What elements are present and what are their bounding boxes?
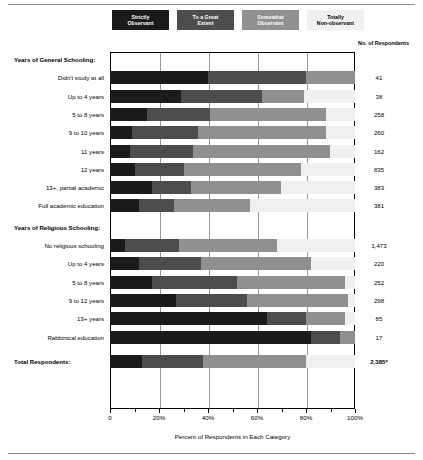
category-label: Didn't study at all — [0, 71, 110, 84]
bar-segment-0 — [110, 355, 142, 368]
table-row — [110, 257, 355, 270]
table-row — [110, 294, 355, 307]
bar-segment-2 — [179, 239, 277, 252]
respondent-count: 220 — [362, 257, 396, 270]
bar-segment-1 — [152, 181, 191, 194]
respondents-column-header: No. of Respondents — [358, 40, 409, 46]
respondent-count: 260 — [362, 126, 396, 139]
respondent-count: 252 — [362, 276, 396, 289]
category-label: 9 to 10 years — [0, 126, 110, 139]
bar-segment-3 — [277, 239, 355, 252]
bar-segment-0 — [110, 331, 311, 344]
bar-segment-1 — [132, 126, 198, 139]
table-row — [110, 126, 355, 139]
legend-label-line2: Observant — [127, 20, 153, 27]
tick-minor-70 — [282, 409, 283, 412]
table-row — [110, 199, 355, 212]
stacked-bar — [110, 239, 355, 252]
stacked-bar — [110, 312, 355, 325]
stacked-bar — [110, 71, 355, 84]
bar-segment-3 — [330, 145, 355, 158]
bar-segment-1 — [139, 199, 173, 212]
tick-60 — [257, 409, 258, 413]
bar-segment-2 — [247, 294, 347, 307]
tick-0 — [110, 409, 111, 413]
bar-segment-2 — [340, 331, 355, 344]
bar-segment-0 — [110, 276, 152, 289]
respondent-count: 298 — [362, 294, 396, 307]
tick-minor-90 — [331, 409, 332, 412]
bar-segment-2 — [306, 71, 355, 84]
respondent-count: 38 — [362, 90, 396, 103]
category-label: 11 years — [0, 145, 110, 158]
group-title-religious-schooling: Years of Religious Schooling: — [14, 221, 100, 234]
bar-segment-2 — [201, 257, 311, 270]
x-axis-tick-labels: 020%40%60%80%100% — [0, 414, 423, 424]
tick-label-60: 60% — [251, 414, 263, 421]
bar-segment-2 — [306, 312, 345, 325]
bar-segment-2 — [193, 145, 330, 158]
stacked-bar — [110, 108, 355, 121]
table-row — [110, 276, 355, 289]
tick-label-40: 40% — [202, 414, 214, 421]
bottom-divider — [8, 453, 415, 454]
stacked-bar — [110, 145, 355, 158]
tick-40 — [208, 409, 209, 413]
legend-key-3: TotallyNon-observant — [307, 10, 364, 30]
bar-segment-1 — [147, 108, 211, 121]
respondent-count: 41 — [362, 71, 396, 84]
respondent-count: 835 — [362, 163, 396, 176]
respondent-count: 258 — [362, 108, 396, 121]
bar-segment-3 — [304, 90, 355, 103]
category-label: 13+ years — [0, 312, 110, 325]
tick-label-100: 100% — [347, 414, 363, 421]
legend-key-1: To a GreatExtent — [177, 10, 234, 30]
x-axis-ticks — [110, 409, 355, 413]
legend-key-0: StrictlyObservant — [112, 10, 169, 30]
stacked-bar — [110, 181, 355, 194]
bar-segment-1 — [125, 239, 179, 252]
bar-segment-1 — [311, 331, 340, 344]
category-label: Up to 4 years — [0, 257, 110, 270]
bar-segment-3 — [311, 257, 355, 270]
category-label: Rabbinical education — [0, 331, 110, 344]
table-row — [110, 163, 355, 176]
bar-segment-3 — [326, 108, 355, 121]
tick-label-0: 0 — [108, 414, 111, 421]
legend-label-line2: Non-observant — [317, 20, 354, 27]
bar-segment-0 — [110, 199, 139, 212]
bar-segment-3 — [306, 355, 355, 368]
tick-minor-10 — [135, 409, 136, 412]
respondent-count: 17 — [362, 331, 396, 344]
bar-segment-2 — [237, 276, 345, 289]
respondent-count: 383 — [362, 181, 396, 194]
table-row — [110, 331, 355, 344]
top-divider — [8, 4, 415, 5]
bar-segment-3 — [250, 199, 355, 212]
stacked-bar — [110, 199, 355, 212]
bar-segment-3 — [345, 312, 355, 325]
bar-segment-0 — [110, 181, 152, 194]
tick-label-80: 80% — [300, 414, 312, 421]
bar-segment-2 — [210, 108, 325, 121]
bar-segment-1 — [181, 90, 262, 103]
tick-minor-50 — [233, 409, 234, 412]
bar-segment-0 — [110, 163, 135, 176]
legend-label-line2: Observant — [257, 20, 283, 27]
x-axis-title: Percent of Respondents in Each Category — [110, 433, 355, 440]
bar-segment-3 — [348, 294, 355, 307]
tick-100 — [355, 409, 356, 413]
bar-segment-0 — [110, 294, 176, 307]
respondent-count: 85 — [362, 312, 396, 325]
tick-80 — [306, 409, 307, 413]
bar-segment-1 — [176, 294, 247, 307]
stacked-bar — [110, 331, 355, 344]
bar-segment-3 — [326, 126, 355, 139]
bar-segment-2 — [198, 126, 325, 139]
category-label: Full academic education — [0, 199, 110, 212]
bar-segment-1 — [135, 163, 184, 176]
respondent-count: 2,385* — [362, 355, 396, 368]
bar-segment-2 — [184, 163, 302, 176]
category-label: Up to 4 years — [0, 90, 110, 103]
respondent-count: 1,473 — [362, 239, 396, 252]
